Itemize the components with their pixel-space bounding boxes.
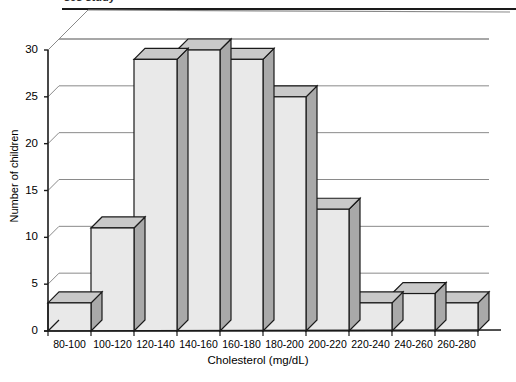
y-axis-depth-edge [48,10,88,50]
y-tick-label-10: 10 [12,231,38,242]
bar-front-face [48,303,91,331]
bar-side-face [349,198,360,331]
bar-side-face [263,48,274,331]
bar-side-face [134,217,145,331]
grid-connector [48,226,59,237]
bar-side-face [177,48,188,331]
x-axis-title: Cholesterol (mg/dL) [0,354,516,366]
grid-connector [48,180,59,191]
figure-container: ses study Number of children Cholesterol… [0,0,516,382]
bar-side-face [306,86,317,331]
grid-connector [48,273,59,284]
x-axis-line [44,330,501,331]
y-tick-label-25: 25 [12,91,38,102]
y-axis-title: Number of children [8,116,20,236]
bar-side-face [220,39,231,331]
bar-80-100 [48,292,102,331]
y-tick-label-0: 0 [12,325,38,336]
x-tick-label-260-280: 260-280 [431,339,483,350]
histogram-plot [0,0,516,382]
bars-layer [48,39,489,331]
y-tick-label-15: 15 [12,185,38,196]
y-tick-label-5: 5 [12,278,38,289]
chart-top-frame [88,10,510,12]
y-tick-label-30: 30 [12,44,38,55]
grid-connector [48,133,59,144]
grid-connector [48,86,59,97]
y-tick-label-20: 20 [12,138,38,149]
